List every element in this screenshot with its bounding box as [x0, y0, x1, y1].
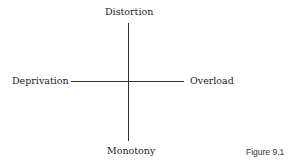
label-top: Distortion	[105, 6, 153, 17]
figure-caption: Figure 9.1	[246, 147, 284, 157]
label-bottom: Monotony	[107, 145, 155, 156]
label-right: Overload	[190, 75, 234, 86]
horizontal-axis	[71, 81, 184, 82]
vertical-axis	[128, 23, 129, 141]
label-left: Deprivation	[12, 75, 69, 86]
